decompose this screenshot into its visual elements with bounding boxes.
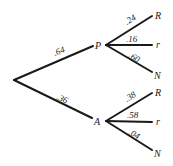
probability-tree-diagram: .64 .36 P A .24 .16 .60 R r N .38 .58 .0… (0, 0, 173, 166)
prob-label-a: .36 (55, 92, 70, 106)
node-a-r-lower: r (156, 116, 160, 127)
prob-label-a-r-lower: .58 (127, 110, 139, 120)
node-p-n: N (153, 70, 162, 81)
prob-label-a-n: .04 (127, 127, 142, 142)
node-p: P (94, 40, 101, 51)
node-a-r-upper: R (154, 87, 161, 98)
node-a-n: N (153, 148, 162, 159)
prob-label-a-r-upper: .38 (123, 89, 138, 104)
node-a: A (93, 116, 101, 127)
prob-label-p: .64 (52, 44, 67, 58)
prob-label-p-r-upper: .24 (123, 12, 138, 27)
node-p-r-lower: r (156, 39, 160, 50)
edge-root-to-a (14, 80, 92, 118)
prob-label-p-r-lower: .16 (126, 34, 138, 44)
node-p-r-upper: R (154, 10, 161, 21)
prob-label-p-n: .60 (127, 50, 142, 65)
edge-a-to-r-lower (106, 121, 152, 122)
